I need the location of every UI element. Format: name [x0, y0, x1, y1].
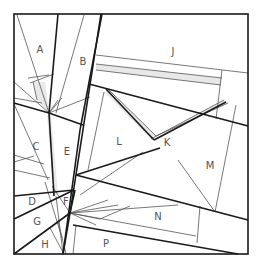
label-g: G: [33, 217, 41, 227]
label-c: C: [33, 142, 40, 152]
label-k: K: [164, 138, 171, 148]
label-d: D: [28, 197, 36, 207]
label-m: M: [206, 161, 215, 171]
label-f: F: [63, 197, 69, 207]
label-p: P: [103, 239, 109, 249]
label-e: E: [64, 147, 70, 157]
label-l: L: [116, 137, 122, 147]
label-j: J: [172, 47, 175, 57]
label-b: B: [80, 57, 87, 67]
label-a: A: [37, 45, 44, 55]
label-h: H: [41, 240, 49, 250]
shaded-strips: [33, 64, 228, 196]
label-n: N: [154, 212, 161, 222]
